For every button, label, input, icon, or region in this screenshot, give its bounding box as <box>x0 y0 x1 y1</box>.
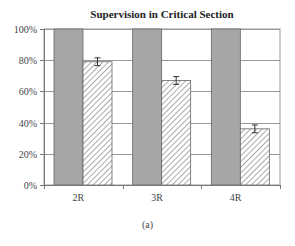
bar-4R-series-1 <box>211 29 240 185</box>
bar-3R-series-1 <box>133 29 162 185</box>
x-tick-label: 4R <box>230 192 242 203</box>
y-tick-label: 60% <box>19 86 37 97</box>
x-tick-label: 2R <box>72 192 84 203</box>
bar-2R-series-2 <box>83 62 112 185</box>
bar-3R-series-2 <box>162 80 191 185</box>
figure-caption: (a) <box>0 219 295 230</box>
y-tick-label: 0% <box>24 180 37 191</box>
y-tick-label: 80% <box>19 55 37 66</box>
bar-2R-series-1 <box>54 29 83 185</box>
y-tick-label: 100% <box>14 24 37 35</box>
x-tick-label: 3R <box>151 192 163 203</box>
y-tick-label: 40% <box>19 118 37 129</box>
bar-chart: 0%20%40%60%80%100%2R3R4R <box>0 0 295 246</box>
bar-4R-series-2 <box>240 129 269 185</box>
y-tick-label: 20% <box>19 149 37 160</box>
